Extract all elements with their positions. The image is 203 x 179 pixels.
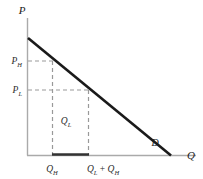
- tick-label-p-high: PH: [10, 56, 22, 68]
- demand-curve-line: [28, 38, 171, 156]
- demand-curve-label: D: [150, 137, 159, 148]
- tick-label-p-low-subscript: L: [17, 90, 22, 97]
- tick-label-q-sum-operator: +: [97, 164, 107, 174]
- tick-label-q-sum: QL + QH: [87, 164, 119, 176]
- y-axis-label: P: [18, 4, 26, 16]
- region-label-q-low-subscript: L: [67, 121, 72, 128]
- tick-label-q-sum-subscript2: H: [113, 169, 119, 176]
- tick-label-q-high-subscript: H: [52, 169, 58, 176]
- tick-label-q-high: QH: [46, 164, 58, 176]
- chart-figure: P Q D PH PL QL QH QL + QH: [0, 0, 203, 179]
- x-axis-label: Q: [187, 149, 195, 161]
- demand-curve-svg: P Q D PH PL QL QH QL + QH: [0, 0, 203, 179]
- region-label-q-low: QL: [61, 116, 72, 128]
- tick-label-p-low: PL: [12, 85, 23, 97]
- tick-label-p-high-subscript: H: [16, 61, 22, 68]
